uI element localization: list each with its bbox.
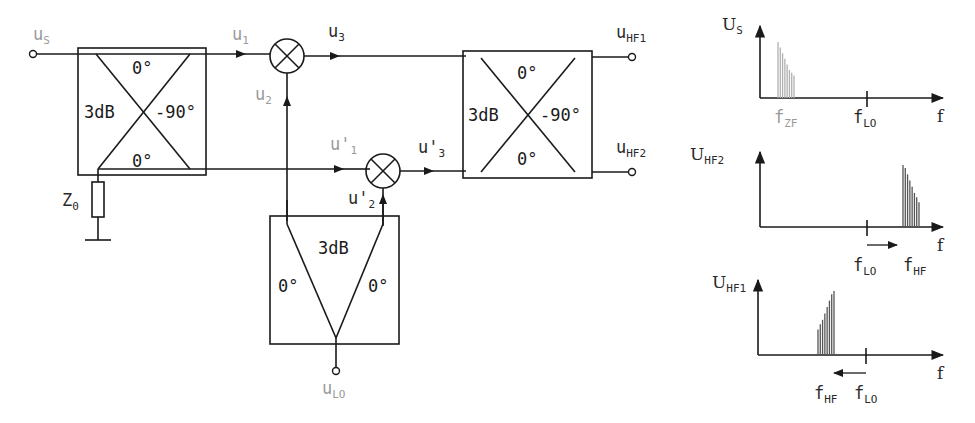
hf1-spectrum-tick-label-hf: fHF	[814, 383, 838, 406]
hf2-spectrum-tick-label-hf: fHF	[903, 255, 927, 278]
arrow-u3	[330, 52, 340, 60]
label-z0: Z0	[62, 190, 79, 213]
hybrid-right-phase-top: 0°	[517, 63, 537, 83]
input-spectrum: USffZFfLO	[722, 14, 945, 130]
hf1-spectrum: UHF1ffHFfLO	[712, 272, 945, 406]
label-u2: u2	[255, 84, 272, 107]
label-u2p: u'2	[348, 188, 375, 211]
resistor-z0	[92, 182, 104, 217]
hybrid-right-phase-right: -90°	[540, 105, 581, 125]
label-u3: u3	[328, 21, 345, 44]
splitter-attenuation: 3dB	[318, 238, 349, 258]
hybrid-right-phase-bottom: 0°	[517, 149, 537, 169]
splitter-phase-left: 0°	[278, 276, 298, 296]
label-uhf2: uHF2	[616, 137, 646, 160]
input-terminal	[30, 51, 37, 58]
label-u3p: u'3	[418, 137, 445, 160]
input-spectrum-x-label: f	[937, 106, 945, 126]
label-u1: u1	[232, 24, 249, 47]
splitter-phase-right: 0°	[368, 276, 388, 296]
label-u1p: u'1	[330, 134, 357, 157]
input-spectrum-y-label: US	[722, 14, 743, 37]
hybrid-left-phase-bottom: 0°	[132, 151, 152, 171]
arrow-u1	[236, 50, 246, 58]
hf1-spectrum-x-label: f	[937, 363, 945, 383]
hybrid-left-phase-top: 0°	[132, 58, 152, 78]
arrow-u3p	[424, 167, 434, 175]
label-ulo: uLO	[322, 378, 346, 401]
label-us: uS	[33, 24, 50, 47]
hf2-spectrum-x-label: f	[937, 235, 945, 255]
mixer-1	[270, 39, 304, 73]
hf2-spectrum-y-label: UHF2	[690, 144, 724, 167]
hf1-terminal	[629, 54, 636, 61]
input-spectrum-tick-label-zf: fZF	[774, 107, 798, 130]
hybrid-right-attenuation: 3dB	[468, 105, 499, 125]
hf2-spectrum: UHF2ffLOfHF	[690, 144, 945, 278]
hf1-spectrum-tick-label-lo: fLO	[854, 383, 878, 406]
hybrid-left-attenuation: 3dB	[84, 102, 115, 122]
hybrid-left-phase-right: -90°	[155, 102, 196, 122]
input-spectrum-tick-label-lo: fLO	[853, 107, 877, 130]
hf2-spectrum-tick-label-lo: fLO	[853, 255, 877, 278]
hybrid-left: 0° 3dB -90° 0°	[78, 48, 206, 175]
arrow-u2	[283, 96, 291, 106]
mixer-2	[366, 154, 400, 188]
label-uhf1: uHF1	[616, 22, 646, 45]
diagram-canvas: 0° 3dB -90° 0° uS u1 Z0 u'1 u3 u2 u'3 u'…	[0, 0, 975, 423]
hf1-spectrum-y-label: UHF1	[712, 272, 746, 295]
hybrid-right: 0° 3dB -90° 0°	[463, 51, 592, 178]
spectra-group: USffZFfLOUHF2ffLOfHFUHF1ffHFfLO	[690, 14, 945, 406]
hf2-terminal	[629, 169, 636, 176]
power-splitter: 3dB 0° 0°	[270, 200, 399, 344]
lo-terminal	[333, 368, 340, 375]
